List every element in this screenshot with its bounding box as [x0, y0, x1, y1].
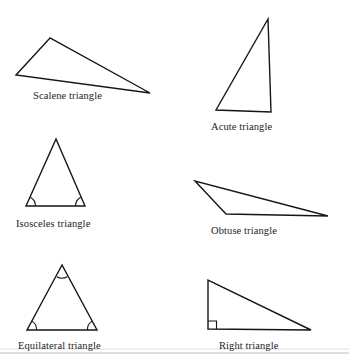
isosceles-triangle-shape	[26, 139, 85, 206]
equilateral-triangle-shape	[27, 265, 97, 330]
right-triangle-label: Right triangle	[219, 340, 278, 352]
triangles-canvas	[0, 0, 349, 363]
acute-triangle-shape	[216, 19, 271, 112]
isosceles-base-angle-arc-right	[75, 197, 80, 206]
scalene-triangle-shape	[16, 38, 150, 93]
triangle-types-figure: Scalene triangle Acute triangle Isoscele…	[0, 0, 349, 363]
right-angle-square-marker	[208, 321, 217, 329]
right-triangle-shape	[208, 280, 311, 330]
acute-triangle-label: Acute triangle	[211, 121, 272, 133]
equilateral-triangle-label: Equilateral triangle	[18, 340, 101, 352]
obtuse-triangle-shape	[195, 181, 328, 216]
equilateral-angle-arc-left	[32, 321, 37, 330]
isosceles-base-angle-arc-left	[30, 197, 35, 206]
equilateral-angle-arc-right	[87, 321, 92, 330]
isosceles-triangle-label: Isosceles triangle	[16, 218, 90, 230]
scalene-triangle-label: Scalene triangle	[33, 90, 102, 102]
equilateral-angle-arc-apex	[57, 277, 67, 278]
obtuse-triangle-label: Obtuse triangle	[211, 225, 277, 237]
